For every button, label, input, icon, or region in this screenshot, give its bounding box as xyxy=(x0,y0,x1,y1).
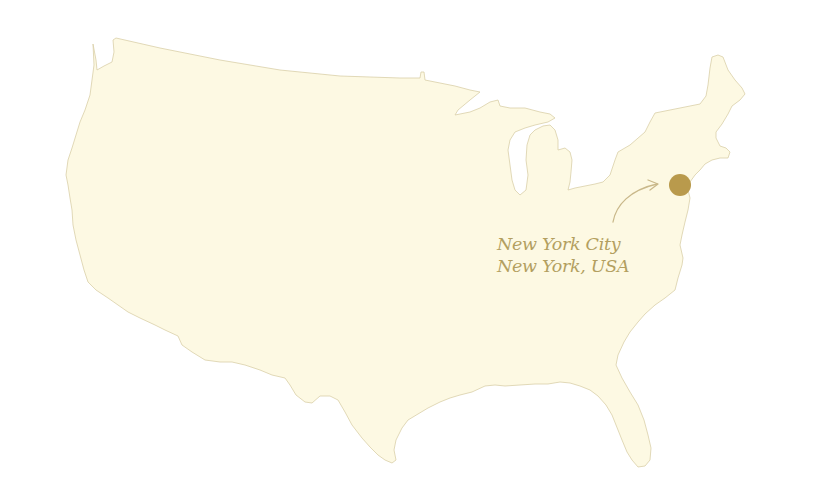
location-label: New York City New York, USA xyxy=(497,233,629,277)
location-dot-icon[interactable] xyxy=(669,174,691,196)
location-city: New York City xyxy=(497,233,629,255)
us-map xyxy=(0,0,813,502)
us-landmass xyxy=(66,38,745,467)
location-state-country: New York, USA xyxy=(497,255,629,277)
